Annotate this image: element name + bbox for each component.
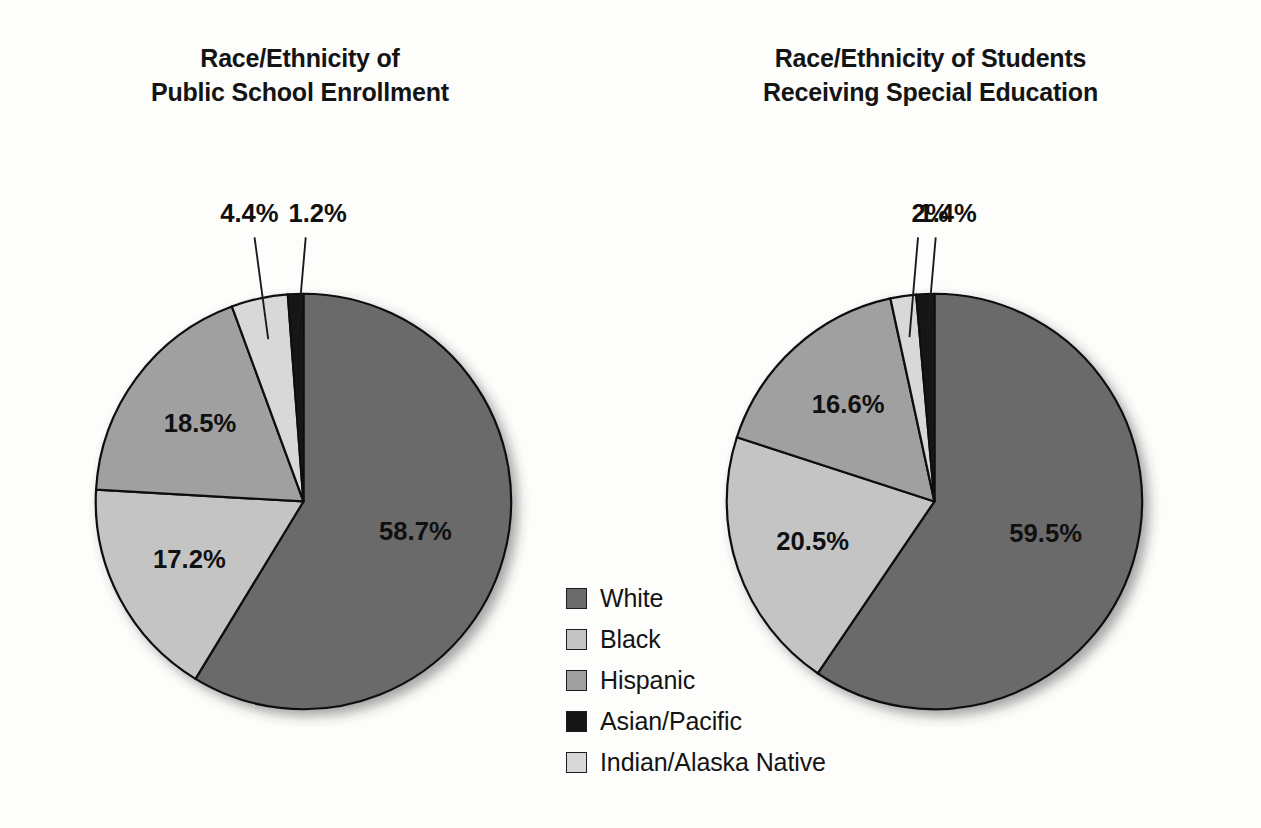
slice-label-white: 59.5%: [1009, 519, 1082, 547]
legend-swatch-black: [566, 629, 587, 650]
pie-body-left: [96, 294, 511, 709]
pie-chart-public-school-enrollment: 58.7%17.2%18.5%4.4%1.2%: [56, 198, 556, 728]
legend-item-black[interactable]: Black: [566, 619, 896, 660]
chart-title-right: Race/Ethnicity of Students Receiving Spe…: [600, 42, 1261, 109]
slice-label-hispanic: 16.6%: [812, 390, 885, 418]
legend-swatch-white: [566, 588, 587, 609]
pie-svg-left: 58.7%17.2%18.5%4.4%1.2%: [56, 198, 556, 728]
slice-label-black: 17.2%: [153, 545, 226, 573]
legend-swatch-hispanic: [566, 670, 587, 691]
legend-swatch-indian-alaska-native: [566, 752, 587, 773]
slice-label-white: 58.7%: [379, 517, 452, 545]
slice-label-black: 20.5%: [776, 527, 849, 555]
legend-item-hispanic[interactable]: Hispanic: [566, 660, 896, 701]
chart-title-left: Race/Ethnicity of Public School Enrollme…: [0, 42, 600, 109]
slice-label-asian-pacific: 1.4%: [918, 199, 977, 227]
legend-label-black: Black: [600, 625, 661, 654]
chart-panel-public-school-enrollment: Race/Ethnicity of Public School Enrollme…: [0, 0, 600, 828]
legend: White Black Hispanic Asian/Pacific India…: [566, 578, 896, 783]
slice-label-hispanic: 18.5%: [164, 409, 237, 437]
slice-label-asian-pacific: 1.2%: [289, 199, 348, 227]
legend-item-asian-pacific[interactable]: Asian/Pacific: [566, 701, 896, 742]
legend-label-hispanic: Hispanic: [600, 666, 695, 695]
legend-label-indian-alaska-native: Indian/Alaska Native: [600, 748, 826, 777]
chart-title-left-line-1: Race/Ethnicity of: [0, 42, 600, 76]
legend-item-white[interactable]: White: [566, 578, 896, 619]
slice-label-indian-alaska-native: 4.4%: [220, 199, 279, 227]
chart-title-left-line-2: Public School Enrollment: [0, 76, 600, 110]
chart-title-right-line-2: Receiving Special Education: [600, 76, 1261, 110]
legend-item-indian-alaska-native[interactable]: Indian/Alaska Native: [566, 742, 896, 783]
legend-label-asian-pacific: Asian/Pacific: [600, 707, 742, 736]
chart-title-right-line-1: Race/Ethnicity of Students: [600, 42, 1261, 76]
legend-label-white: White: [600, 584, 663, 613]
legend-swatch-asian-pacific: [566, 711, 587, 732]
